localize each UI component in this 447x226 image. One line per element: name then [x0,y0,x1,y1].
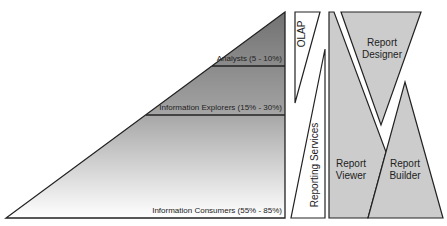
report-designer-label-line2: Designer [362,49,403,60]
tier-label-explorers: Information Explorers (15% - 30%) [159,103,282,112]
report-viewer-label-line1: Report [336,158,366,169]
report-builder-label-line1: Report [390,158,420,169]
bi-user-tools-diagram: Analysts (5 - 10%) Information Explorers… [0,0,447,226]
report-builder-label-line2: Builder [389,170,421,181]
olap-label: OLAP [296,20,307,47]
report-designer-label-line1: Report [367,37,397,48]
olap-wedge: OLAP [295,12,320,103]
tier-label-analysts: Analysts (5 - 10%) [217,54,283,63]
user-pyramid: Analysts (5 - 10%) Information Explorers… [6,12,285,218]
report-viewer-label-line2: Viewer [336,170,367,181]
tier-label-consumers: Information Consumers (55% - 85%) [152,206,282,215]
reporting-services-label: Reporting Services [309,123,320,207]
